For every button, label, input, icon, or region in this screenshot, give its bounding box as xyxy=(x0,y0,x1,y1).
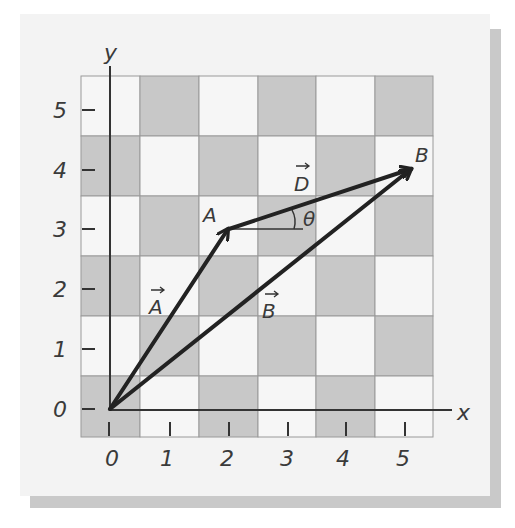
x-tick-label: 5 xyxy=(396,446,410,471)
point-B-label: B xyxy=(415,143,429,167)
point-A-label: A xyxy=(201,203,217,227)
x-tick-label: 2 xyxy=(220,446,234,471)
x-tick-label: 3 xyxy=(280,446,294,471)
x-axis-label: x xyxy=(456,400,471,425)
x-tick-label: 0 xyxy=(105,446,119,471)
y-tick-label: 0 xyxy=(53,397,67,422)
vector-B-label: B xyxy=(262,299,276,323)
x-tick-label: 1 xyxy=(160,446,174,471)
y-tick-label: 1 xyxy=(53,337,67,362)
y-tick-label: 5 xyxy=(53,98,67,123)
checkerboard-grid xyxy=(81,76,433,437)
y-axis-label: y xyxy=(103,40,118,65)
x-tick-labels: 0 1 2 3 4 5 xyxy=(105,446,410,471)
y-tick-label: 2 xyxy=(53,277,67,302)
angle-theta-label: θ xyxy=(303,207,315,231)
vector-A-label: A xyxy=(147,295,163,319)
vector-D-label: D xyxy=(294,172,309,196)
x-tick-label: 4 xyxy=(336,446,350,471)
y-tick-labels: 5 4 3 2 1 0 xyxy=(53,98,67,422)
y-tick-label: 4 xyxy=(53,158,67,183)
y-tick-label: 3 xyxy=(53,217,67,242)
vector-diagram: y x 5 4 3 2 1 0 0 1 2 3 4 5 θ A B A D B xyxy=(0,0,515,528)
